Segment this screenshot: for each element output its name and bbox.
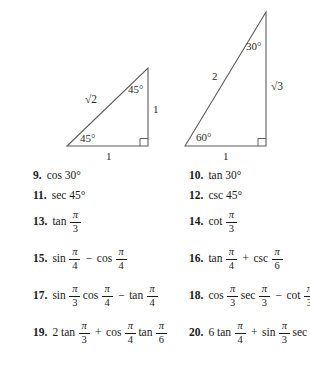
expression-text: sin xyxy=(262,327,275,339)
fraction-denominator: 6 xyxy=(273,260,282,272)
exercise-number: 14. xyxy=(189,216,203,228)
fraction: π3 xyxy=(79,321,90,345)
fraction-numerator: π xyxy=(70,284,79,296)
fraction-numerator: π xyxy=(305,284,310,296)
fraction: π4 xyxy=(235,321,246,345)
exercise-item[interactable]: 13.tanπ3 xyxy=(0,210,160,234)
exercise-item[interactable]: 9.cos 30° xyxy=(0,170,160,182)
exercise-item[interactable]: 12.csc 45° xyxy=(160,190,310,202)
operator: + xyxy=(242,253,249,265)
exercise-expression: cotπ3 xyxy=(208,210,239,234)
exercise-row: 19.2 tanπ3+cosπ4tanπ620.6 tanπ4+sinπ3sec… xyxy=(0,321,310,358)
fraction-numerator: π xyxy=(260,284,269,296)
exercise-number: 11. xyxy=(33,190,47,202)
exercise-number: 19. xyxy=(33,327,47,339)
right-triangle-outline xyxy=(185,12,266,146)
right-hypotenuse-label: 2 xyxy=(212,70,218,82)
expression-text: cos xyxy=(97,253,112,265)
expression-text: sec 45° xyxy=(52,190,86,202)
fraction: π4 xyxy=(226,247,237,271)
exercise-item[interactable]: 16.tanπ4+cscπ6 xyxy=(160,247,310,271)
exercise-expression: cos 30° xyxy=(47,170,84,182)
fraction: π6 xyxy=(272,247,283,271)
right-top-angle-label: 30° xyxy=(246,40,261,52)
left-bottom-angle-label: 45° xyxy=(80,132,95,144)
operator: + xyxy=(251,327,258,339)
expression-text: cos xyxy=(106,327,121,339)
expression-text: csc xyxy=(253,253,268,265)
exercise-expression: tanπ3 xyxy=(52,210,83,234)
exercise-row: 13.tanπ314.cotπ3 xyxy=(0,210,310,247)
fraction: π3 xyxy=(226,210,237,234)
exercise-number: 18. xyxy=(189,290,203,302)
left-right-angle-marker xyxy=(140,139,148,147)
exercise-number: 10. xyxy=(189,170,203,182)
textbook-page: √2 1 1 45° 45° 2 √3 1 3 xyxy=(0,0,310,366)
fraction-denominator: 4 xyxy=(227,260,236,272)
fraction-numerator: π xyxy=(228,284,237,296)
expression-text: tan xyxy=(138,327,152,339)
fraction: π3 xyxy=(279,321,290,345)
exercise-expression: csc 45° xyxy=(208,190,244,202)
fraction: π4 xyxy=(102,284,113,308)
right-vertical-leg-label: √3 xyxy=(271,80,283,92)
expression-text: tan xyxy=(208,253,222,265)
exercise-item[interactable]: 14.cotπ3 xyxy=(160,210,310,234)
right-right-angle-marker xyxy=(258,139,266,147)
expression-text: 6 tan xyxy=(208,327,231,339)
exercise-item[interactable]: 15.sinπ4−cosπ4 xyxy=(0,247,160,271)
fraction-denominator: 3 xyxy=(227,223,236,235)
exercise-item[interactable]: 11.sec 45° xyxy=(0,190,160,202)
expression-text: sec xyxy=(292,327,307,339)
fraction-numerator: π xyxy=(117,247,126,259)
left-hypotenuse-label: √2 xyxy=(85,93,97,105)
fraction-denominator: 3 xyxy=(260,297,269,309)
exercise-number: 20. xyxy=(189,327,203,339)
exercise-row: 11.sec 45°12.csc 45° xyxy=(0,190,310,210)
fraction-numerator: π xyxy=(70,247,79,259)
fraction-denominator: 4 xyxy=(117,260,126,272)
expression-text: sec xyxy=(241,290,256,302)
expression-text: cos 30° xyxy=(47,170,81,182)
fraction-denominator: 4 xyxy=(103,297,112,309)
exercise-expression: sinπ4−cosπ4 xyxy=(52,247,129,271)
expression-text: tan xyxy=(52,216,66,228)
fraction: π4 xyxy=(147,284,158,308)
right-bottom-angle-label: 60° xyxy=(196,131,211,143)
exercise-expression: sinπ3cosπ4−tanπ4 xyxy=(52,284,160,308)
fraction-numerator: π xyxy=(148,284,157,296)
fraction-denominator: 4 xyxy=(235,334,244,346)
fraction-numerator: π xyxy=(280,321,289,333)
exercise-item[interactable]: 17.sinπ3cosπ4−tanπ4 xyxy=(0,284,160,308)
45-45-90-triangle: √2 1 1 45° 45° xyxy=(67,68,159,162)
exercise-number: 12. xyxy=(189,190,203,202)
exercise-number: 9. xyxy=(33,170,42,182)
left-vertical-leg-label: 1 xyxy=(153,103,159,115)
exercise-list: 9.cos 30°10.tan 30°11.sec 45°12.csc 45°1… xyxy=(0,170,310,358)
expression-text: tan xyxy=(129,290,143,302)
operator: + xyxy=(95,327,102,339)
exercise-row: 9.cos 30°10.tan 30° xyxy=(0,170,310,190)
exercise-item[interactable]: 19.2 tanπ3+cosπ4tanπ6 xyxy=(0,321,160,345)
fraction: π3 xyxy=(70,210,81,234)
fraction: π3 xyxy=(304,284,310,308)
exercise-expression: tan 30° xyxy=(208,170,244,182)
expression-text: sin xyxy=(52,290,65,302)
figure-panel: √2 1 1 45° 45° 2 √3 1 3 xyxy=(0,0,310,172)
fraction-denominator: 3 xyxy=(70,297,79,309)
fraction-denominator: 3 xyxy=(71,223,80,235)
fraction-denominator: 3 xyxy=(228,297,237,309)
exercise-expression: 2 tanπ3+cosπ4tanπ6 xyxy=(52,321,169,345)
exercise-item[interactable]: 18.cosπ3secπ3−cotπ3 xyxy=(160,284,310,308)
exercise-number: 17. xyxy=(33,290,47,302)
left-horizontal-leg-label: 1 xyxy=(106,150,112,162)
fraction-numerator: π xyxy=(126,321,135,333)
exercise-item[interactable]: 20.6 tanπ4+sinπ3secπ6 xyxy=(160,321,310,345)
expression-text: cos xyxy=(83,290,98,302)
exercise-item[interactable]: 10.tan 30° xyxy=(160,170,310,182)
fraction-numerator: π xyxy=(71,210,80,222)
fraction: π3 xyxy=(69,284,80,308)
fraction-numerator: π xyxy=(235,321,244,333)
exercise-row: 15.sinπ4−cosπ416.tanπ4+cscπ6 xyxy=(0,247,310,284)
exercise-expression: tanπ4+cscπ6 xyxy=(208,247,285,271)
